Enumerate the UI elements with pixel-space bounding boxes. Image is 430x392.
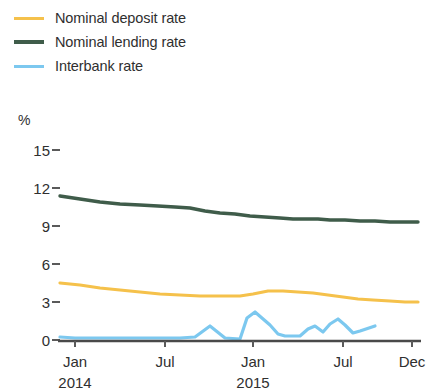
series-line-nominal-deposit-rate (60, 283, 418, 302)
x-tick-label-jul-2015: Jul (313, 354, 373, 369)
y-axis-ticks (52, 150, 60, 340)
x-tick-label-jul-2014: Jul (135, 354, 195, 369)
x-tick-label-jan-2015: Jan (223, 354, 283, 369)
x-tick-year-2015: 2015 (223, 375, 283, 390)
series-line-nominal-lending-rate (60, 196, 418, 222)
series-line-interbank-rate (60, 312, 375, 339)
x-tick-year-2014: 2014 (45, 375, 105, 390)
x-tick-label-jan-2014: Jan (45, 354, 105, 369)
x-tick-label-dec-2015: Dec (382, 354, 430, 369)
